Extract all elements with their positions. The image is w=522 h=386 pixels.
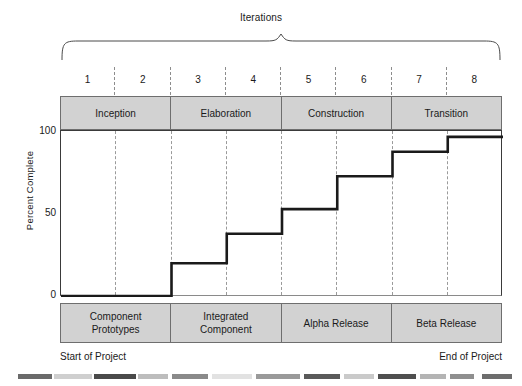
iteration-number: 8 [472,74,478,85]
deliverable-band: Component Prototypes Integrated Componen… [60,303,502,343]
phase-cell-transition: Transition [392,97,501,129]
deliverable-cell-component-prototypes: Component Prototypes [61,304,171,342]
percent-complete-step-line [60,131,504,297]
scan-artifact-blot [420,374,446,379]
phase-band: Inception Elaboration Construction Trans… [60,96,502,130]
iterations-brace [60,33,502,65]
iteration-cell-6: 6 [336,64,391,94]
scan-artifact-blot [304,374,340,379]
scan-artifact-blot [482,374,512,379]
scan-artifact-blot [172,374,208,379]
iteration-divider-tick [114,67,115,95]
scan-artifact-blot [450,374,474,379]
phase-cell-inception: Inception [61,97,171,129]
scan-artifact-blot [256,374,300,379]
iteration-cell-7: 7 [392,64,447,94]
figure-root: Iterations 1 2 3 4 5 6 [0,0,522,386]
y-axis: 100 50 0 Percent Complete [10,0,56,386]
iteration-cell-3: 3 [171,64,226,94]
iteration-number-row: 1 2 3 4 5 6 7 8 [60,64,502,94]
iteration-divider-tick [225,67,226,95]
phase-cell-construction: Construction [282,97,392,129]
iteration-number: 4 [251,74,257,85]
scan-artifact-blot [54,374,92,379]
iteration-number: 1 [85,74,91,85]
phase-label: Construction [308,108,364,119]
y-axis-title: Percent Complete [24,131,35,251]
phase-label: Transition [425,108,469,119]
deliverable-label: Beta Release [416,317,476,330]
iteration-number: 7 [416,74,422,85]
scan-artifact-blot [18,374,52,379]
deliverable-label: Component Prototypes [90,310,142,336]
iteration-number: 5 [306,74,312,85]
deliverable-label: Integrated Component [200,310,252,336]
iteration-number: 2 [140,74,146,85]
iteration-divider-tick [335,67,336,95]
deliverable-cell-alpha-release: Alpha Release [282,304,392,342]
deliverable-label: Alpha Release [304,317,369,330]
start-of-project-caption: Start of Project [60,351,126,362]
iteration-divider-tick [391,67,392,95]
iteration-number: 3 [195,74,201,85]
scan-artifact-blot [378,374,416,379]
end-of-project-caption: End of Project [439,351,502,362]
iteration-cell-2: 2 [115,64,170,94]
y-tick-label-0: 0 [16,289,56,300]
iterations-title: Iterations [0,12,522,23]
scan-artifact-strip [0,373,522,381]
iteration-cell-1: 1 [60,64,115,94]
scan-artifact-blot [212,374,252,379]
iteration-cell-4: 4 [226,64,281,94]
phase-label: Inception [95,108,136,119]
iteration-divider-tick [170,67,171,95]
phase-cell-elaboration: Elaboration [171,97,281,129]
iteration-divider-tick [446,67,447,95]
deliverable-cell-beta-release: Beta Release [392,304,501,342]
phase-label: Elaboration [201,108,252,119]
iteration-divider-tick [280,67,281,95]
plot-area [60,130,502,296]
y-tick-label-50: 50 [16,207,56,218]
iteration-cell-8: 8 [447,64,502,94]
iteration-number: 6 [361,74,367,85]
scan-artifact-blot [344,374,374,379]
y-tick-label-100: 100 [16,125,56,136]
scan-artifact-blot [138,374,168,379]
scan-artifact-blot [94,374,136,379]
deliverable-cell-integrated-component: Integrated Component [171,304,281,342]
iteration-cell-5: 5 [281,64,336,94]
